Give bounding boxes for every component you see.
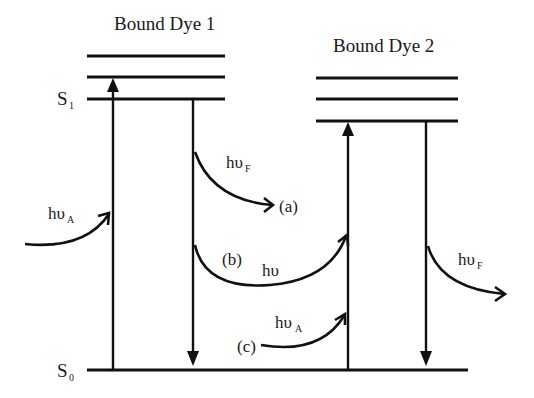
svg-text:A: A bbox=[295, 323, 303, 334]
dye1-title: Bound Dye 1 bbox=[114, 13, 215, 34]
path-a-label: (a) bbox=[279, 197, 298, 216]
svg-text:hυ: hυ bbox=[48, 204, 65, 223]
dye2-levels bbox=[316, 78, 458, 121]
dye2-absorb-label: hυ A bbox=[275, 313, 303, 334]
dye1-absorb-label: hυ A bbox=[48, 204, 75, 225]
s1-label: S 1 bbox=[57, 88, 74, 111]
svg-text:0: 0 bbox=[69, 372, 74, 383]
dye2-direct-absorption-curve bbox=[261, 314, 345, 347]
svg-text:S: S bbox=[57, 88, 68, 109]
svg-text:S: S bbox=[57, 360, 68, 381]
dye1-fluor-label: hυ F bbox=[226, 153, 251, 174]
path-b-label: (b) bbox=[222, 250, 242, 269]
svg-text:F: F bbox=[245, 163, 251, 174]
svg-text:hυ: hυ bbox=[275, 313, 292, 332]
dye2-fluor-label: hυ F bbox=[458, 250, 483, 271]
svg-text:1: 1 bbox=[69, 100, 74, 111]
svg-text:A: A bbox=[67, 214, 75, 225]
svg-text:F: F bbox=[477, 260, 483, 271]
dye2-title: Bound Dye 2 bbox=[333, 35, 434, 56]
svg-text:hυ: hυ bbox=[226, 153, 243, 172]
svg-text:hυ: hυ bbox=[458, 250, 475, 269]
energy-diagram: Bound Dye 1 Bound Dye 2 S 1 S 0 bbox=[0, 0, 534, 398]
transfer-photon-label: hυ bbox=[262, 261, 279, 280]
path-c-label: (c) bbox=[237, 337, 256, 356]
dye2-emission-arrow bbox=[420, 121, 432, 366]
s0-label: S 0 bbox=[57, 360, 74, 383]
dye1-levels bbox=[87, 56, 225, 99]
dye1-emission-arrow bbox=[187, 99, 199, 366]
